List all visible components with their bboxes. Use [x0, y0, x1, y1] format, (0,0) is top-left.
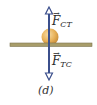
arrow-up-icon [46, 7, 53, 14]
force-subscript: TC [60, 60, 71, 69]
force-subscript: CT [60, 20, 71, 29]
table-bar [10, 43, 92, 47]
force-label-ftc: → FTC [52, 55, 72, 69]
force-label-fct: → FCT [52, 15, 72, 29]
vector-arrow-icon: → [53, 50, 60, 58]
arrow-down-icon [46, 73, 53, 80]
free-body-diagram: → FCT → FTC (d) [0, 0, 97, 105]
vector-arrow-icon: → [53, 10, 60, 18]
figure-caption: (d) [38, 84, 54, 97]
